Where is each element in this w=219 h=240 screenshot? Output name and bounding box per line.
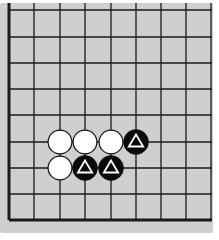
white-stone	[48, 156, 72, 180]
white-stone	[48, 130, 72, 154]
black-stone	[99, 156, 124, 181]
white-stone	[99, 130, 123, 154]
go-board-diagram	[0, 0, 219, 240]
black-stone	[124, 130, 149, 155]
white-stone-circle	[48, 130, 72, 154]
white-stone	[73, 130, 97, 154]
white-stone-circle	[99, 130, 123, 154]
black-stone	[73, 156, 98, 181]
white-stone-circle	[73, 130, 97, 154]
white-stone-circle	[48, 156, 72, 180]
